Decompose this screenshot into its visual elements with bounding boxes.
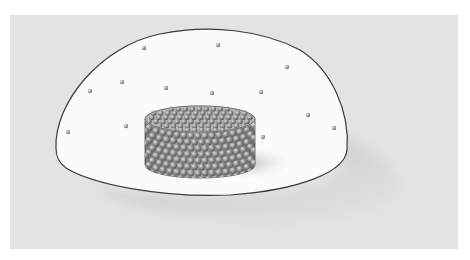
surface-dot [164, 86, 168, 90]
sphere-filled-container [139, 106, 261, 183]
illustration [0, 0, 470, 260]
surface-dot [261, 135, 265, 139]
surface-dot [306, 113, 310, 117]
surface-dot [285, 65, 289, 69]
surface-dot [124, 124, 128, 128]
surface-dot [142, 46, 146, 50]
surface-dot [216, 43, 220, 47]
surface-dot [66, 130, 70, 134]
surface-dot [259, 90, 263, 94]
surface-dot [88, 89, 92, 93]
surface-dot [210, 91, 214, 95]
surface-dot [120, 80, 124, 84]
dome-container-illustration [0, 0, 470, 260]
surface-dot [332, 126, 336, 130]
